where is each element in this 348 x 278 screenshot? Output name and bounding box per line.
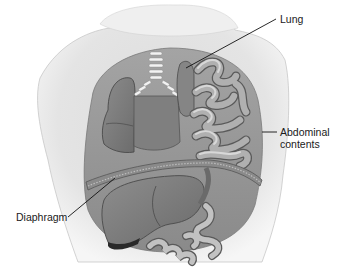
heart <box>134 96 180 150</box>
left-lung <box>177 61 194 116</box>
lung-label: Lung <box>280 13 303 25</box>
diaphragm-label: Diaphragm <box>16 211 67 223</box>
illustration: Lung Abdominal contents Diaphragm <box>0 0 348 278</box>
neck <box>100 5 238 36</box>
abdominal-label-line1: Abdominal <box>280 126 330 138</box>
abdominal-contents-label: Abdominal contents <box>280 126 330 150</box>
abdominal-label-line2: contents <box>280 138 330 150</box>
